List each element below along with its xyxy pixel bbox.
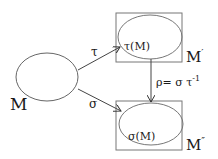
rho-label: ρ= σ τ-1 xyxy=(156,74,200,89)
image-tau-box-label: M′ xyxy=(186,47,204,66)
sigma-label: σ xyxy=(89,97,97,111)
image-sigma-box-label: M″ xyxy=(186,135,205,154)
sigma-arrow xyxy=(78,89,121,111)
image-tau-box xyxy=(116,13,182,62)
source-set-label: M xyxy=(10,94,27,114)
tau-label: τ xyxy=(91,45,98,59)
tau-arrow xyxy=(78,47,120,70)
mapping-diagram: M τ(M) M′ σ(M) M″ τ σ ρ= σ τ-1 xyxy=(0,0,218,159)
image-sigma-inner-label: σ(M) xyxy=(128,130,155,143)
image-tau-inner-label: τ(M) xyxy=(124,40,150,53)
